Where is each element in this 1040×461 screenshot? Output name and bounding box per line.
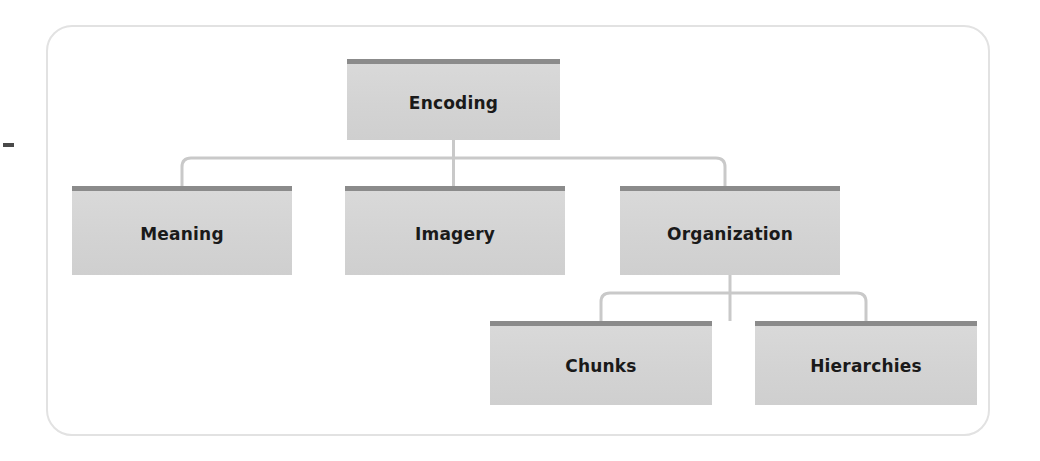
node-chunks[interactable]: Chunks — [490, 321, 712, 405]
node-label: Hierarchies — [810, 356, 922, 375]
node-label: Chunks — [565, 356, 636, 375]
node-label: Meaning — [140, 224, 224, 243]
node-organization[interactable]: Organization — [620, 186, 840, 275]
node-label: Imagery — [415, 224, 495, 243]
node-label: Encoding — [409, 93, 498, 112]
node-encoding[interactable]: Encoding — [347, 59, 560, 140]
node-label: Organization — [667, 224, 793, 243]
node-meaning[interactable]: Meaning — [72, 186, 292, 275]
node-imagery[interactable]: Imagery — [345, 186, 565, 275]
node-hierarchies[interactable]: Hierarchies — [755, 321, 977, 405]
diagram-canvas: Encoding Meaning Imagery Organization Ch… — [0, 0, 1040, 461]
